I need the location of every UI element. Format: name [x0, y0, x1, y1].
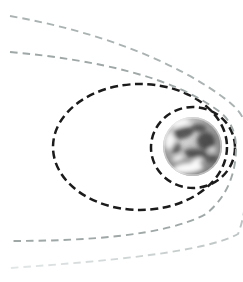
- hyperbolic-trajectory-lower: [10, 158, 243, 268]
- earth-orbit-trajectories-diagram: [0, 0, 243, 282]
- earth-texture-blob: [208, 148, 216, 153]
- earth-image: [163, 117, 222, 176]
- earth-texture-blob: [197, 132, 215, 150]
- orbit-diagram: [0, 0, 243, 282]
